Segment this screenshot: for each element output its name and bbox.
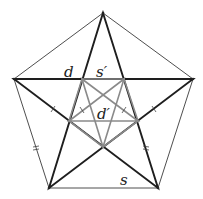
label-s: s bbox=[120, 171, 128, 189]
pentagon-diagram: d s′ d′ s bbox=[0, 0, 203, 199]
label-s-prime: s′ bbox=[96, 63, 108, 81]
label-d-prime: d′ bbox=[97, 105, 111, 123]
outer-vertices bbox=[13, 12, 195, 190]
label-d: d bbox=[64, 63, 74, 81]
double-tick-marks bbox=[33, 146, 149, 150]
